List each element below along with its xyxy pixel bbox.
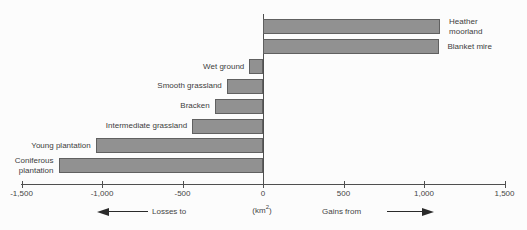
losses-label: Losses to xyxy=(152,207,186,216)
bar-smooth-grassland xyxy=(227,79,263,94)
unit-suffix: ) xyxy=(269,206,272,215)
category-label-smooth-grassland: Smooth grassland xyxy=(157,81,221,91)
x-axis-tick-label: 0 xyxy=(241,189,285,198)
category-label-line: Young plantation xyxy=(31,141,90,151)
category-label-line: Bracken xyxy=(180,101,209,111)
bar-bracken xyxy=(215,99,263,114)
category-label-line: Heather xyxy=(449,17,482,27)
bar-coniferous-plantation xyxy=(59,158,264,173)
x-axis-tick-1500 xyxy=(505,181,506,188)
category-label-line: Coniferous xyxy=(15,156,54,166)
category-label-young-plantation: Young plantation xyxy=(31,141,90,151)
x-axis-tick-label: -500 xyxy=(161,189,205,198)
x-axis-tick-label: -1,000 xyxy=(80,189,124,198)
bar-wet-ground xyxy=(249,59,263,74)
unit-prefix: (km xyxy=(252,206,265,215)
category-label-wet-ground: Wet ground xyxy=(203,62,244,72)
category-label-heather-moorland: Heathermoorland xyxy=(449,17,482,36)
category-label-line: Wet ground xyxy=(203,62,244,72)
x-axis-tick-label: 500 xyxy=(322,189,366,198)
category-label-blanket-mire: Blanket mire xyxy=(448,42,492,52)
category-label-line: Blanket mire xyxy=(448,42,492,52)
bar-intermediate-grassland xyxy=(192,119,263,134)
category-label-line: Intermediate grassland xyxy=(106,121,187,131)
land-cover-change-chart: HeathermoorlandBlanket mireWet groundSmo… xyxy=(0,0,527,230)
x-axis-tick--1500 xyxy=(22,181,23,188)
x-axis-tick-label: 1,500 xyxy=(483,189,527,198)
x-axis-tick-500 xyxy=(344,181,345,188)
category-label-line: plantation xyxy=(15,166,54,176)
x-axis-tick--1000 xyxy=(102,181,103,188)
x-axis-tick-label: -1,500 xyxy=(0,189,44,198)
category-label-line: moorland xyxy=(449,27,482,37)
right-arrow-line xyxy=(387,211,423,212)
right-arrow-icon xyxy=(422,208,434,216)
bar-blanket-mire xyxy=(263,39,439,54)
category-label-intermediate-grassland: Intermediate grassland xyxy=(106,121,187,131)
gains-label: Gains from xyxy=(322,207,361,216)
left-arrow-line xyxy=(108,211,148,212)
x-axis-tick--500 xyxy=(183,181,184,188)
category-label-bracken: Bracken xyxy=(180,101,209,111)
category-label-coniferous-plantation: Coniferousplantation xyxy=(15,156,54,175)
category-label-line: Smooth grassland xyxy=(157,81,221,91)
bar-young-plantation xyxy=(96,138,263,153)
axis-unit-label: (km2) xyxy=(240,204,284,215)
plot-area: HeathermoorlandBlanket mireWet groundSmo… xyxy=(0,0,527,230)
x-axis-tick-0 xyxy=(263,181,264,188)
x-axis-tick-1000 xyxy=(424,181,425,188)
x-axis-tick-label: 1,000 xyxy=(402,189,446,198)
bar-heather-moorland xyxy=(263,19,440,34)
left-arrow-icon xyxy=(97,208,109,216)
